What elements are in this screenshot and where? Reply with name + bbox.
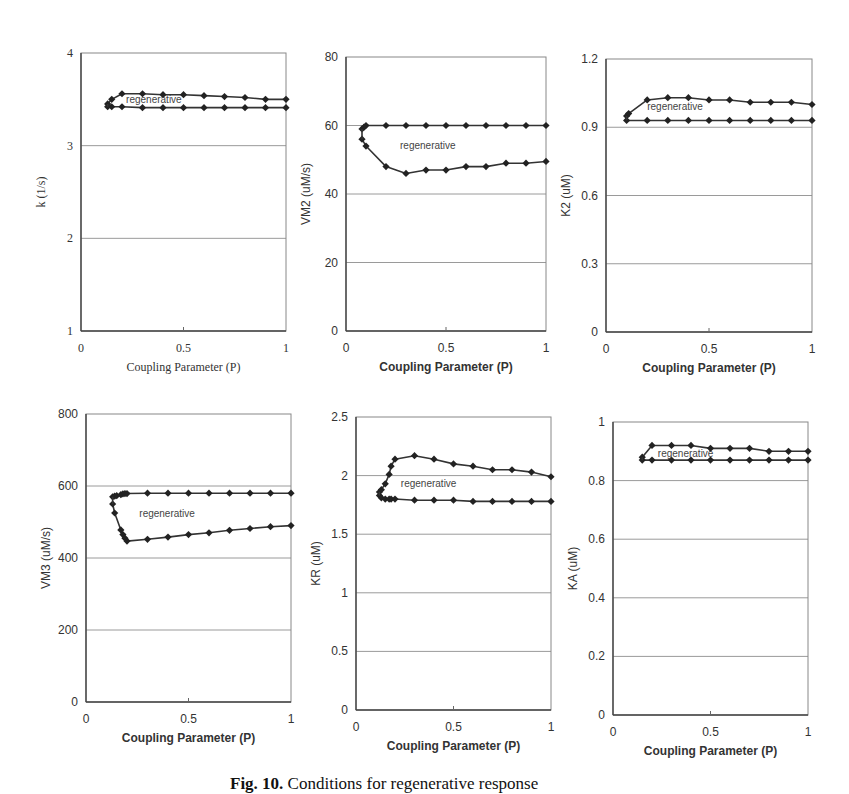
diamond-marker-icon <box>522 122 529 129</box>
x-tick-label: 0 <box>610 725 617 739</box>
y-tick-label: 600 <box>58 479 78 493</box>
diamond-marker-icon <box>508 466 515 473</box>
diamond-marker-icon <box>391 456 398 463</box>
diamond-marker-icon <box>489 466 496 473</box>
diamond-marker-icon <box>726 456 733 463</box>
y-tick-label: 2.5 <box>331 410 348 424</box>
diamond-marker-icon <box>542 158 549 165</box>
diamond-marker-icon <box>139 104 146 111</box>
diamond-marker-icon <box>469 498 476 505</box>
x-tick-label: 0 <box>83 712 90 726</box>
y-axis-label: KR (uM) <box>309 541 323 586</box>
diamond-marker-icon <box>746 456 753 463</box>
chart-panel-kr: 00.511.522.500.51Coupling Parameter (P)K… <box>309 410 555 753</box>
y-tick-label: 4 <box>67 46 73 60</box>
caption-label: Fig. 10. <box>230 774 283 793</box>
y-tick-label: 2 <box>341 469 348 483</box>
diamond-marker-icon <box>226 490 233 497</box>
chart-panel-vm3: 020040060080000.51Coupling Parameter (P)… <box>39 407 295 745</box>
y-tick-label: 60 <box>325 119 339 133</box>
x-axis-label: Coupling Parameter (P) <box>644 744 777 758</box>
diamond-marker-icon <box>767 99 774 106</box>
series-line-lower <box>108 107 286 108</box>
x-tick-label: 0.5 <box>701 342 718 356</box>
diamond-marker-icon <box>411 497 418 504</box>
diamond-marker-icon <box>262 104 269 111</box>
diamond-marker-icon <box>767 117 774 124</box>
diamond-marker-icon <box>388 463 395 470</box>
x-axis-label: Coupling Parameter (P) <box>127 360 241 374</box>
y-tick-label: 0 <box>331 324 338 338</box>
x-tick-label: 1 <box>805 725 812 739</box>
x-axis-label: Coupling Parameter (P) <box>387 739 520 753</box>
chart-panel-k2: 00.30.60.91.200.51Coupling Parameter (P)… <box>559 52 816 375</box>
y-tick-label: 0.8 <box>588 474 605 488</box>
diamond-marker-icon <box>205 490 212 497</box>
diamond-marker-icon <box>402 122 409 129</box>
y-tick-label: 0.3 <box>581 257 598 271</box>
y-tick-label: 200 <box>58 623 78 637</box>
diamond-marker-icon <box>200 92 207 99</box>
y-axis-label: VM2 (uM/s) <box>299 163 313 225</box>
diamond-marker-icon <box>788 117 795 124</box>
diamond-marker-icon <box>547 473 554 480</box>
diamond-marker-icon <box>221 93 228 100</box>
diamond-marker-icon <box>705 96 712 103</box>
diamond-marker-icon <box>648 456 655 463</box>
diamond-marker-icon <box>200 104 207 111</box>
diamond-marker-icon <box>282 96 289 103</box>
diamond-marker-icon <box>287 490 294 497</box>
diamond-marker-icon <box>118 90 125 97</box>
diamond-marker-icon <box>262 96 269 103</box>
y-tick-label: 0 <box>591 325 598 339</box>
x-tick-label: 1 <box>809 342 816 356</box>
diamond-marker-icon <box>422 122 429 129</box>
diamond-marker-icon <box>267 523 274 530</box>
y-tick-label: 0 <box>341 703 348 717</box>
diamond-marker-icon <box>411 452 418 459</box>
diamond-marker-icon <box>180 104 187 111</box>
diamond-marker-icon <box>528 468 535 475</box>
diamond-marker-icon <box>747 99 754 106</box>
diamond-marker-icon <box>118 103 125 110</box>
diamond-marker-icon <box>111 509 118 516</box>
diamond-marker-icon <box>386 471 393 478</box>
diamond-marker-icon <box>462 163 469 170</box>
caption-text: Conditions for regenerative response <box>288 774 539 793</box>
diamond-marker-icon <box>664 94 671 101</box>
diamond-marker-icon <box>522 160 529 167</box>
diamond-marker-icon <box>765 448 772 455</box>
y-tick-label: 0.2 <box>588 649 605 663</box>
diamond-marker-icon <box>430 497 437 504</box>
diamond-marker-icon <box>746 445 753 452</box>
y-tick-label: 1 <box>598 415 605 429</box>
y-tick-label: 1 <box>341 586 348 600</box>
diamond-marker-icon <box>144 536 151 543</box>
diamond-marker-icon <box>469 463 476 470</box>
diamond-marker-icon <box>489 498 496 505</box>
y-axis-label: VM3 (uM/s) <box>39 527 53 589</box>
diamond-marker-icon <box>246 525 253 532</box>
y-tick-label: 0 <box>598 708 605 722</box>
y-tick-label: 0.4 <box>588 591 605 605</box>
diamond-marker-icon <box>164 490 171 497</box>
diamond-marker-icon <box>482 163 489 170</box>
diamond-marker-icon <box>422 166 429 173</box>
series-line-upper <box>113 493 291 497</box>
x-axis-label: Coupling Parameter (P) <box>379 360 512 374</box>
regenerative-annotation: regenerative <box>139 508 195 519</box>
x-tick-label: 0.5 <box>438 341 455 355</box>
x-tick-label: 1 <box>543 341 550 355</box>
diamond-marker-icon <box>282 104 289 111</box>
x-tick-label: 0.5 <box>176 341 191 355</box>
y-tick-label: 1.5 <box>331 527 348 541</box>
series-line-upper <box>362 126 546 129</box>
y-axis-label: KA (uM) <box>566 547 580 590</box>
y-tick-label: 20 <box>325 256 339 270</box>
charts-svg: 123400.51Coupling Parameter (P)k (1/s)re… <box>0 0 849 794</box>
regenerative-annotation: regenerative <box>647 101 703 112</box>
x-tick-label: 0 <box>343 341 350 355</box>
diamond-marker-icon <box>808 101 815 108</box>
diamond-marker-icon <box>726 445 733 452</box>
y-tick-label: 0.6 <box>581 189 598 203</box>
